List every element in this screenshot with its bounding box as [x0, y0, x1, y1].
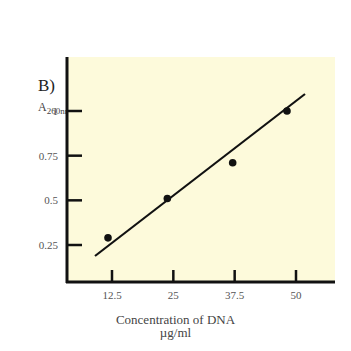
x-tick-label: 37.5 [225, 289, 245, 301]
data-point [283, 107, 291, 115]
x-tick-label: 12.5 [102, 289, 122, 301]
data-point [229, 159, 237, 167]
chart-plot: 12.52537.5500.250.50.751 [0, 0, 351, 351]
plot-area [67, 57, 335, 282]
y-tick-label: 0.25 [39, 239, 59, 251]
x-axis-units: µg/ml [0, 326, 351, 340]
x-tick-label: 25 [168, 289, 180, 301]
x-tick-label: 50 [291, 289, 303, 301]
y-tick-label: 1 [53, 105, 59, 117]
y-tick-label: 0.75 [39, 150, 59, 162]
data-point [164, 195, 172, 203]
data-point [104, 234, 112, 242]
y-tick-label: 0.5 [44, 194, 58, 206]
